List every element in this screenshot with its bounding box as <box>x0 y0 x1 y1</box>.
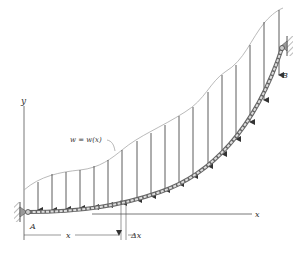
y-axis: y <box>20 96 27 240</box>
delta-x-guides <box>121 200 126 240</box>
x-axis: x <box>92 210 260 219</box>
support-b: B <box>280 36 294 80</box>
support-b-label: B <box>281 71 288 80</box>
cable-load-diagram: y x w = w(x) <box>0 0 304 258</box>
load-label-leader <box>107 140 115 151</box>
x-axis-label: x <box>255 210 260 219</box>
load-arrows <box>38 10 279 210</box>
support-a: A <box>14 202 36 231</box>
support-a-label: A <box>29 222 36 231</box>
load-curve <box>24 8 283 190</box>
load-label: w = w(x) <box>70 136 102 144</box>
dimension-x-label: x <box>66 231 71 240</box>
y-axis-label: y <box>20 96 27 106</box>
dimension-dx-label: Δx <box>130 231 142 240</box>
